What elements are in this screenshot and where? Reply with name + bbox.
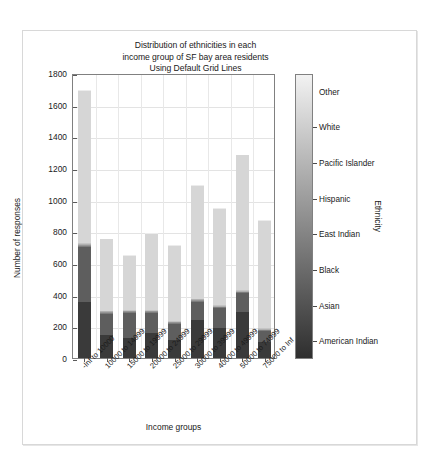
- bar-segment[interactable]: [236, 155, 249, 290]
- y-axis-tick-mark: [73, 202, 77, 203]
- bar-segment[interactable]: [78, 302, 91, 358]
- y-axis-tick-label: 1800: [48, 69, 67, 79]
- colorbar-label: Pacific Islander: [319, 159, 375, 168]
- gridline-vertical: [163, 75, 164, 358]
- y-axis-label: Number of responses: [12, 197, 22, 277]
- y-axis-tick-mark: [73, 297, 77, 298]
- y-axis-tick-mark: [73, 265, 77, 266]
- x-axis-label: Income groups: [72, 422, 275, 432]
- bar-segment[interactable]: [145, 234, 158, 310]
- gridline-vertical: [186, 75, 187, 358]
- gridline-vertical: [118, 75, 119, 358]
- bar-segment[interactable]: [168, 246, 181, 321]
- y-axis-tick-label: 600: [53, 259, 67, 269]
- bar-segment[interactable]: [123, 256, 136, 310]
- chart-title-line-2: income group of SF bay area residents: [63, 52, 328, 64]
- chart-title-line-1: Distribution of ethnicities in each: [63, 40, 328, 52]
- gridline-vertical: [96, 75, 97, 358]
- y-axis-tick-mark: [73, 107, 77, 108]
- colorbar-gradient: [295, 74, 313, 359]
- bar-stack[interactable]: [236, 155, 249, 358]
- bar-segment[interactable]: [191, 186, 204, 298]
- chart-title: Distribution of ethnicities in each inco…: [63, 40, 328, 75]
- colorbar-tick-mark: [313, 127, 317, 128]
- y-axis-tick-label: 1400: [48, 132, 67, 142]
- gridline-vertical: [253, 75, 254, 358]
- bar-segment[interactable]: [258, 221, 271, 328]
- gridline-vertical: [231, 75, 232, 358]
- y-axis-tick-label: 1000: [48, 196, 67, 206]
- screenshot-root: Distribution of ethnicities in each inco…: [0, 0, 439, 470]
- colorbar-label: White: [319, 123, 340, 132]
- y-axis-tick-mark: [73, 233, 77, 234]
- colorbar-label: American Indian: [319, 337, 378, 346]
- y-axis-tick-mark: [73, 138, 77, 139]
- colorbar-tick-mark: [313, 199, 317, 200]
- colorbar-tick-mark: [313, 341, 317, 342]
- y-axis-tick-mark: [73, 170, 77, 171]
- y-axis-tick-label: 400: [53, 291, 67, 301]
- y-axis-tick-label: 1600: [48, 101, 67, 111]
- y-axis-tick-label: 0: [62, 354, 67, 364]
- colorbar-label: Other: [319, 87, 339, 96]
- colorbar-label: Black: [319, 265, 339, 274]
- colorbar-title: Ethnicity: [373, 200, 383, 232]
- bar-segment[interactable]: [78, 91, 91, 243]
- colorbar-tick-mark: [313, 306, 317, 307]
- y-axis-tick-mark: [73, 75, 77, 76]
- gridline-horizontal: [73, 138, 274, 139]
- y-axis-tick-mark: [73, 360, 77, 361]
- bar-segment[interactable]: [213, 308, 226, 328]
- bar-segment[interactable]: [100, 239, 113, 310]
- colorbar-label: Hispanic: [319, 194, 350, 203]
- bar-stack[interactable]: [78, 90, 91, 358]
- colorbar-label: East Indian: [319, 230, 360, 239]
- colorbar-tick-mark: [313, 270, 317, 271]
- gridline-vertical: [141, 75, 142, 358]
- bar-segment[interactable]: [191, 302, 204, 320]
- bar-segment[interactable]: [236, 293, 249, 312]
- y-axis-tick-mark: [73, 328, 77, 329]
- gridline-vertical: [208, 75, 209, 358]
- y-axis-tick-labels: 020040060080010001200140016001800: [23, 74, 67, 359]
- colorbar[interactable]: OtherWhitePacific IslanderHispanicEast I…: [295, 74, 313, 359]
- gridline-horizontal: [73, 107, 274, 108]
- colorbar-tick-mark: [313, 234, 317, 235]
- bar-segment[interactable]: [145, 313, 158, 333]
- y-axis-tick-label: 200: [53, 322, 67, 332]
- y-axis-tick-label: 1200: [48, 164, 67, 174]
- y-axis-tick-label: 800: [53, 227, 67, 237]
- plot-area: [72, 74, 275, 359]
- colorbar-label: Asian: [319, 301, 339, 310]
- bar-segment[interactable]: [78, 247, 91, 302]
- bar-segment[interactable]: [213, 209, 226, 305]
- matlab-figure-panel: Distribution of ethnicities in each inco…: [22, 30, 417, 445]
- bar-segment[interactable]: [100, 314, 113, 335]
- colorbar-tick-mark: [313, 163, 317, 164]
